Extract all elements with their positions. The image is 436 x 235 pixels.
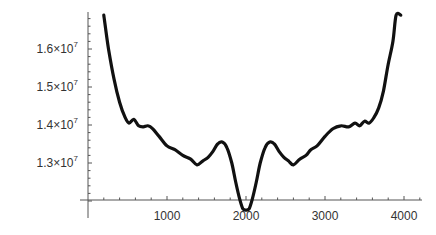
y-axis-ticks: 1.3×1071.4×1071.5×1071.6×107	[37, 19, 93, 201]
y-tick-label: 1.4×107	[37, 116, 79, 132]
y-tick-label: 1.3×107	[37, 154, 79, 170]
x-tick-label: 1000	[154, 209, 181, 223]
x-tick-label: 3000	[312, 209, 339, 223]
line-chart: 1.3×1071.4×1071.5×1071.6×107 10002000300…	[0, 0, 436, 235]
axes	[80, 12, 422, 218]
x-tick-label: 4000	[391, 209, 418, 223]
data-series-curve	[104, 13, 401, 210]
y-tick-label: 1.6×107	[37, 40, 79, 56]
y-tick-label: 1.5×107	[37, 78, 79, 94]
